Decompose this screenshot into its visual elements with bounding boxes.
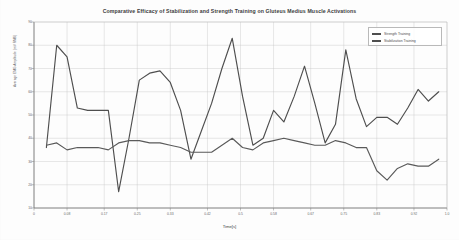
x-axis-title: Time[s]	[0, 224, 459, 229]
legend-item-stabilization-training: Stabilization Training	[372, 38, 438, 45]
legend-label: Stabilization Training	[384, 39, 416, 43]
axis-lines	[32, 22, 448, 211]
grid-lines	[34, 22, 447, 208]
y-tick-label: 40	[18, 136, 32, 140]
x-tick-labels: 00.080.170.250.330.420.50.580.670.750.83…	[0, 212, 459, 222]
legend-item-strength-training: Strength Training	[372, 31, 438, 38]
x-tick-label: 0.33	[167, 212, 174, 216]
y-tick-label: 50	[18, 113, 32, 117]
x-tick-label: 0.25	[134, 212, 141, 216]
y-tick-label: 30	[18, 160, 32, 164]
x-tick-label: 0.17	[101, 212, 108, 216]
y-tick-label: 10	[18, 206, 32, 210]
x-tick-label: 0.75	[340, 212, 347, 216]
x-tick-label: 0.08	[64, 212, 71, 216]
x-tick-label: 0.83	[373, 212, 380, 216]
legend-label: Strength Training	[384, 32, 410, 36]
y-tick-labels: 102030405060708090	[16, 0, 32, 240]
y-tick-label: 80	[18, 43, 32, 47]
x-tick-label: 0.42	[204, 212, 211, 216]
y-tick-label: 60	[18, 90, 32, 94]
chart-container: Comparative Efficacy of Stabilization an…	[0, 0, 459, 240]
y-tick-label: 90	[18, 20, 32, 24]
x-tick-label: 0.92	[411, 212, 418, 216]
x-tick-label: 0.67	[307, 212, 314, 216]
x-tick-label: 1.0	[445, 212, 450, 216]
chart-legend: Strength Training Stabilization Training	[368, 27, 442, 46]
x-tick-label: 0	[33, 212, 35, 216]
x-tick-label: 0.5	[238, 212, 243, 216]
legend-swatch-icon	[372, 33, 381, 35]
chart-title: Comparative Efficacy of Stabilization an…	[0, 8, 459, 14]
x-tick-label: 0.58	[270, 212, 277, 216]
y-tick-label: 20	[18, 183, 32, 187]
legend-swatch-icon	[372, 40, 381, 42]
y-tick-label: 70	[18, 67, 32, 71]
